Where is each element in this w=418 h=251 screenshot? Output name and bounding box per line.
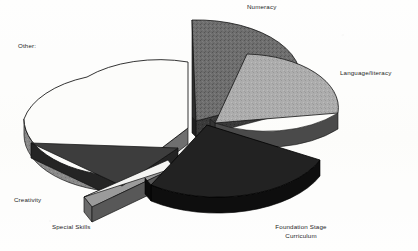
slice-label-language-literacy: Language/literacy <box>340 69 391 77</box>
slice-label-other: Other: <box>18 42 36 50</box>
slice-label-special-skills: Special Skills <box>52 223 91 231</box>
pie-chart-canvas <box>0 0 418 251</box>
slice-label-foundation-stage-curriculum-line1: Foundation Stage <box>265 223 337 231</box>
slice-label-numeracy: Numeracy <box>247 3 276 11</box>
pie-chart-figure: Numeracy Language/literacy Foundation St… <box>0 0 418 251</box>
slice-label-creativity: Creativity <box>14 196 41 204</box>
slice-label-foundation-stage-curriculum-line2: Curriculum <box>265 232 337 240</box>
